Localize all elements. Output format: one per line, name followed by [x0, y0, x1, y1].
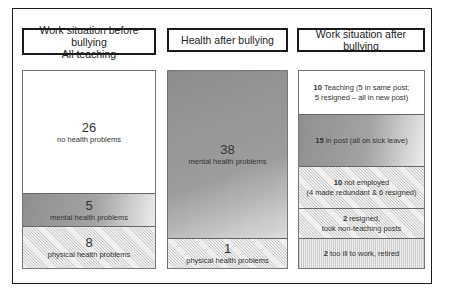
cell-text: not employed — [344, 178, 389, 187]
cell-text-line1: 2 resigned, — [343, 214, 380, 224]
cell-label: mental health problems — [189, 157, 267, 166]
cell-count: 15 — [315, 136, 323, 145]
cell-physical-health-after: 1 physical health problems — [168, 238, 287, 268]
cell-text: in post (all on sick leave) — [326, 136, 408, 145]
header-work-after: Work situation after bullying — [297, 28, 425, 52]
header-work-before: Work situation before bullying All teach… — [22, 28, 156, 55]
cell-count: 10 — [314, 83, 322, 92]
cell-count: 26 — [82, 121, 96, 135]
cell-text-line1: 10 not employed — [334, 178, 389, 188]
cell-count: 10 — [334, 178, 342, 187]
cell-count: 8 — [85, 236, 92, 250]
cell-label: physical health problems — [48, 250, 131, 259]
column-work-after: 10 Teaching (5 in same post; 5 resigned … — [298, 70, 425, 269]
cell-count: 2 — [324, 249, 328, 258]
cell-count: 5 — [85, 199, 92, 213]
header-work-before-line2: All teaching — [62, 48, 116, 60]
cell-count: 1 — [224, 242, 231, 256]
cell-count: 38 — [220, 143, 234, 157]
column-work-before: 26 no health problems 5 mental health pr… — [22, 70, 156, 269]
cell-physical-health-before: 8 physical health problems — [23, 226, 155, 268]
cell-label: no health problems — [57, 135, 121, 144]
cell-label: mental health problems — [50, 213, 128, 222]
cell-text-line1: 15 in post (all on sick leave) — [315, 136, 408, 146]
cell-text-line1: 10 Teaching (5 in same post; — [314, 83, 410, 93]
cell-text-line1: 2 too ill to work, retired — [324, 249, 399, 259]
cell-text: resigned, — [349, 214, 380, 223]
cell-resigned-non-teaching: 2 resigned, took non-teaching posts — [299, 208, 424, 238]
column-health-after: 38 mental health problems 1 physical hea… — [167, 70, 288, 269]
cell-not-employed: 10 not employed (4 made redundant & 6 re… — [299, 166, 424, 208]
header-work-after-line1: Work situation after bullying — [299, 28, 423, 52]
cell-text-line2: (4 made redundant & 6 resigned) — [306, 188, 416, 198]
cell-mental-health-after: 38 mental health problems — [168, 71, 287, 238]
cell-text-line2: took non-teaching posts — [322, 224, 402, 234]
cell-teaching: 10 Teaching (5 in same post; 5 resigned … — [299, 71, 424, 114]
cell-text-line2: 5 resigned – all in new post) — [315, 93, 408, 103]
cell-in-post-sick-leave: 15 in post (all on sick leave) — [299, 114, 424, 166]
cell-count: 2 — [343, 214, 347, 223]
cell-label: physical health problems — [186, 256, 269, 265]
cell-too-ill-retired: 2 too ill to work, retired — [299, 238, 424, 268]
cell-mental-health-before: 5 mental health problems — [23, 193, 155, 226]
cell-text: too ill to work, retired — [330, 249, 399, 258]
header-work-before-line1: Work situation before bullying — [24, 24, 154, 48]
header-health-after-line1: Health after bullying — [181, 34, 274, 46]
header-health-after: Health after bullying — [167, 28, 288, 52]
cell-no-health-problems: 26 no health problems — [23, 71, 155, 193]
cell-text: Teaching (5 in same post; — [324, 83, 409, 92]
